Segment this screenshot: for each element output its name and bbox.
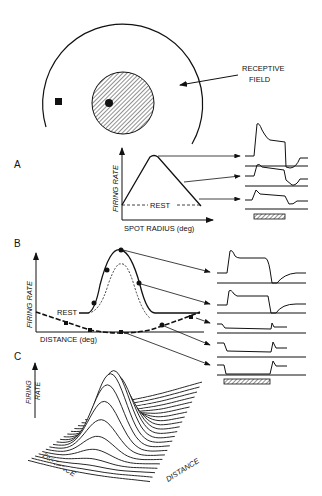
receptive-field-label-2: FIELD	[249, 75, 271, 84]
receptive-field-diagram: RECEPTIVE FIELD	[43, 24, 285, 144]
panel-b-rest-label: REST	[57, 308, 77, 317]
receptive-field-figure: RECEPTIVE FIELD A FIRING RATE SPOT RADIU…	[0, 0, 322, 496]
panel-c-ylabel-1: FIRING	[25, 380, 32, 404]
receptive-field-arrow	[180, 75, 238, 85]
panel-a-rest-label: REST	[150, 201, 170, 210]
spot-square	[55, 98, 62, 105]
receptive-field-label: RECEPTIVE	[242, 64, 285, 73]
panel-c-ylabel-2: RATE	[34, 382, 41, 400]
panel-a-letter: A	[14, 159, 21, 170]
panel-c: C FIRING RATE DISTANCE DISTANCE	[14, 351, 202, 484]
panel-c-xlabel-right: DISTANCE	[164, 456, 201, 484]
center-dot	[105, 99, 113, 107]
panel-a-curve	[122, 156, 201, 207]
panel-c-letter: C	[14, 351, 21, 362]
panel-b-ylabel: FIRING RATE	[25, 280, 34, 328]
panel-b-points	[64, 248, 193, 335]
panel-a-xlabel: SPOT RADIUS (deg)	[124, 224, 195, 233]
panel-b-arrows	[123, 250, 210, 365]
panel-a-traces	[245, 124, 308, 219]
panel-a-ylabel: FIRING RATE	[111, 164, 120, 212]
panel-b-letter: B	[14, 238, 21, 249]
panel-a: A FIRING RATE SPOT RADIUS (deg) REST	[14, 124, 308, 233]
panel-b-center-curve	[88, 264, 150, 318]
panel-b: B FIRING RATE DISTANCE (deg) REST	[14, 238, 306, 384]
panel-b-traces	[217, 251, 306, 384]
panel-c-surface	[28, 371, 202, 482]
center-disk	[92, 72, 154, 134]
panel-b-xlabel: DISTANCE (deg)	[40, 335, 97, 344]
